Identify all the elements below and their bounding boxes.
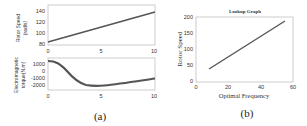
- chart-b: Lookup Graph Rotor Speed 200 150 100 50 …: [176, 9, 296, 99]
- x-tick: 0: [46, 48, 49, 54]
- y-tick: 140: [36, 8, 45, 14]
- y-tick: -1000: [31, 75, 45, 81]
- y-axis-label-unit: (rad/s): [22, 20, 28, 35]
- x-tick: 10: [151, 93, 157, 99]
- chart-a-bottom: Electromagnetic torque(N.m) 1000 0 -1000…: [13, 57, 157, 99]
- y-axis-label-unit: torque(N.m): [20, 61, 26, 88]
- x-tick: 40: [258, 84, 264, 90]
- x-tick: 0: [46, 93, 49, 99]
- x-axis-label: Optimal Frequency: [219, 92, 270, 99]
- chart-a-top: Rotor Speed (rad/s) 140 120 100 80 0 5 1…: [15, 5, 157, 54]
- plot-area: [48, 5, 155, 45]
- y-tick: 100: [184, 46, 193, 52]
- x-tick: 20: [225, 84, 231, 90]
- x-tick: 5: [99, 48, 102, 54]
- x-tick: 10: [151, 48, 157, 54]
- x-tick: 0: [194, 84, 197, 90]
- y-tick: 120: [36, 19, 45, 25]
- y-tick: 100: [36, 30, 45, 36]
- y-tick: 1000: [33, 61, 45, 67]
- y-tick: -2000: [31, 82, 45, 88]
- caption-b: (b): [241, 107, 254, 120]
- chart-title: Lookup Graph: [229, 9, 261, 14]
- x-tick: 60: [290, 84, 296, 90]
- x-tick: 5: [99, 93, 102, 99]
- y-tick: 50: [187, 62, 193, 68]
- y-axis-label: Electromagnetic: [13, 57, 19, 93]
- y-tick: 0: [190, 78, 193, 84]
- y-tick: 80: [39, 41, 45, 47]
- y-axis-label: Rotor Speed: [15, 14, 21, 42]
- y-tick: 200: [184, 14, 193, 20]
- y-axis-label: Rotor Speed: [176, 31, 184, 66]
- caption-a: (a): [94, 110, 107, 123]
- plot-area: [196, 17, 293, 82]
- figure: Rotor Speed (rad/s) 140 120 100 80 0 5 1…: [0, 0, 307, 126]
- y-tick: 150: [184, 30, 193, 36]
- y-tick: 0: [42, 68, 45, 74]
